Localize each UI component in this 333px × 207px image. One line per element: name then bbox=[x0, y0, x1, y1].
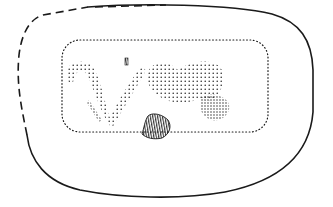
motif-v bbox=[66, 62, 145, 128]
drawing bbox=[0, 0, 333, 207]
dense-patch bbox=[200, 95, 229, 121]
drawing-canvas: Line drawing of an object outline with a… bbox=[0, 0, 333, 207]
small-mark bbox=[125, 58, 128, 65]
hatched-element bbox=[142, 114, 170, 139]
